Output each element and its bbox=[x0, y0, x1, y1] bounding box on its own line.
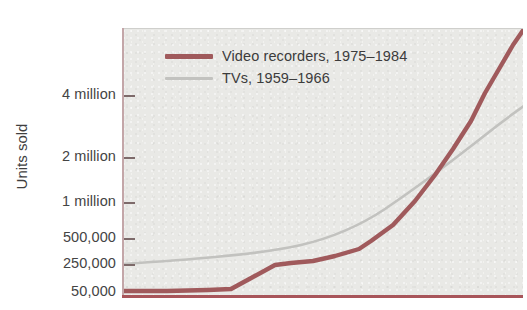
y-axis-title: Units sold bbox=[13, 92, 30, 222]
legend-label-tvs: TVs, 1959–1966 bbox=[222, 70, 330, 86]
y-tick-label-500000: 500,000 bbox=[63, 229, 116, 245]
y-tick-label-250000: 250,000 bbox=[63, 255, 116, 271]
legend-label-video-recorders: Video recorders, 1975–1984 bbox=[222, 48, 407, 64]
y-tick-mark-500000 bbox=[124, 238, 135, 240]
y-tick-label-1-million: 1 million bbox=[62, 193, 116, 209]
y-tick-mark-2-million bbox=[124, 157, 135, 159]
legend-swatch-video-recorders-icon bbox=[165, 54, 213, 59]
legend: Video recorders, 1975–1984 TVs, 1959–196… bbox=[165, 45, 495, 89]
legend-swatch-tvs-icon bbox=[165, 77, 213, 80]
y-tick-label-2-million: 2 million bbox=[62, 148, 116, 164]
y-tick-label-50000: 50,000 bbox=[71, 283, 116, 299]
legend-item-video-recorders: Video recorders, 1975–1984 bbox=[165, 45, 495, 67]
y-tick-label-4-million: 4 million bbox=[62, 86, 116, 102]
legend-item-tvs: TVs, 1959–1966 bbox=[165, 67, 495, 89]
plot-area: Video recorders, 1975–1984 TVs, 1959–196… bbox=[122, 28, 523, 296]
y-tick-mark-1-million bbox=[124, 202, 135, 204]
x-axis-baseline bbox=[122, 295, 523, 298]
y-axis-line bbox=[122, 28, 124, 296]
y-tick-mark-250000 bbox=[124, 264, 135, 266]
chart-figure: Video recorders, 1975–1984 TVs, 1959–196… bbox=[0, 0, 527, 310]
y-tick-mark-4-million bbox=[124, 95, 135, 97]
